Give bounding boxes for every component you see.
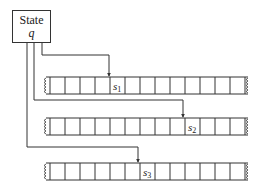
head-connector-3: [27, 41, 138, 162]
head-symbol-1: s1: [113, 80, 121, 94]
tape-2: s2: [44, 118, 248, 135]
tape-3: s3: [44, 163, 248, 180]
tape-left-break-icon: [44, 78, 46, 93]
tape-left-break-icon: [44, 164, 46, 179]
head-symbol-3: s3: [143, 166, 151, 180]
tape-left-break-icon: [44, 119, 46, 134]
tape-1: s1: [44, 77, 248, 94]
state-variable: q: [13, 27, 50, 39]
tapes: s1s2s3: [44, 77, 248, 180]
head-symbol-2: s2: [188, 121, 196, 135]
tape-right-break-icon: [246, 164, 248, 179]
head-connector-2: [34, 41, 183, 117]
tape-right-break-icon: [246, 78, 248, 93]
state-box: State q: [12, 10, 51, 43]
head-connector-1: [42, 41, 109, 76]
tape-right-break-icon: [246, 119, 248, 134]
